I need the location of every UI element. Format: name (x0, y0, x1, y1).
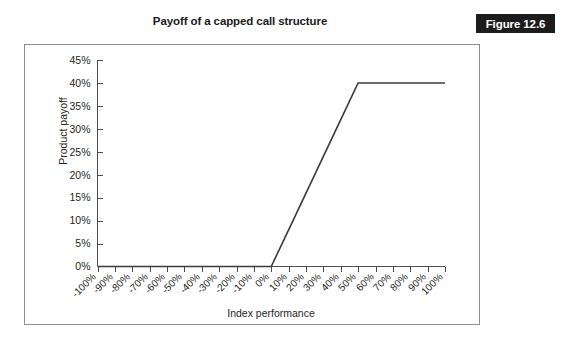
x-tick-label: -10% (230, 271, 254, 295)
x-tick-label: 60% (354, 271, 376, 293)
y-tick-label: 0% (75, 260, 90, 272)
y-tick-label: 30% (69, 123, 90, 135)
y-tick-label: 35% (69, 100, 90, 112)
x-tick-label: 30% (301, 271, 323, 293)
capped-call-payoff-line (98, 83, 446, 267)
plot-area: 0%5%10%15%20%25%30%35%40%45% -100%-90%-8… (25, 45, 481, 326)
x-tick-label: 50% (336, 271, 358, 293)
chart-title: Payoff of a capped call structure (24, 15, 456, 27)
y-tick-label: 15% (69, 191, 90, 203)
x-tick-label: 20% (284, 271, 306, 293)
x-tick-labels: -100%-90%-80%-70%-60%-50%-40%-30%-20%-10… (70, 271, 445, 299)
y-tick-label: 10% (69, 214, 90, 226)
x-tick-label: 10% (267, 271, 289, 293)
figure-number-badge: Figure 12.6 (476, 14, 555, 33)
x-tick-label: 40% (319, 271, 341, 293)
x-tick-label: -30% (195, 271, 219, 295)
y-tick-label: 5% (75, 237, 90, 249)
x-tick-label: 80% (388, 271, 410, 293)
x-tick-label: -50% (160, 271, 184, 295)
y-tick-label: 25% (69, 146, 90, 158)
chart-panel: Product payoff Index performance 0%5%10%… (24, 44, 480, 325)
y-tick-label: 20% (69, 169, 90, 181)
axis-lines (98, 60, 446, 267)
y-tick-label: 40% (69, 77, 90, 89)
y-tick-marks (98, 61, 103, 245)
figure-root: Payoff of a capped call structure Figure… (0, 0, 563, 353)
x-tick-label: 70% (371, 271, 393, 293)
y-tick-labels: 0%5%10%15%20%25%30%35%40%45% (69, 54, 90, 272)
data-series (98, 83, 446, 267)
x-tick-label: -80% (108, 271, 132, 295)
y-tick-label: 45% (69, 54, 90, 66)
